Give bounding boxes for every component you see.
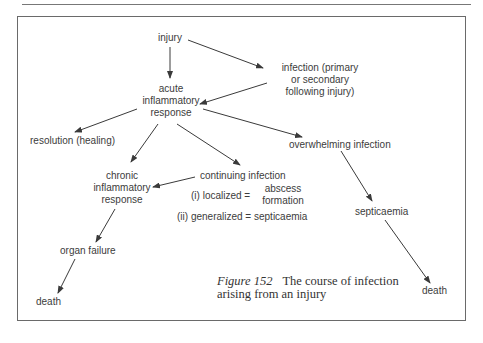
node-resolution: resolution (healing): [30, 135, 115, 147]
node-localized-value: abscess formation: [254, 183, 312, 207]
node-infection: infection (primary or secondary followin…: [266, 62, 374, 98]
node-chronic-line3: response: [86, 194, 158, 206]
node-localized-value-line1: abscess: [254, 183, 312, 195]
node-chronic: chronic inflammatory response: [86, 170, 158, 206]
node-acute: acute inflammatory response: [132, 83, 210, 119]
node-injury: injury: [158, 32, 182, 44]
figure-caption: Figure 152The course of infection arisin…: [217, 275, 399, 301]
edge-organ-death: [58, 259, 75, 293]
edge-overwhelming-septicaemia: [341, 151, 372, 201]
node-death-left: death: [36, 296, 61, 308]
node-infection-line3: following injury): [266, 86, 374, 98]
node-acute-line2: inflammatory: [132, 95, 210, 107]
node-septicaemia: septicaemia: [355, 206, 408, 218]
node-infection-line1: infection (primary: [266, 62, 374, 74]
edge-acute-overwhelming: [203, 109, 302, 137]
node-chronic-line1: chronic: [86, 170, 158, 182]
node-infection-line2: or secondary: [266, 74, 374, 86]
node-generalized: (ii) generalized = septicaemia: [177, 211, 307, 223]
caption-title-line1: The course of infection: [282, 274, 398, 288]
node-death-right: death: [422, 285, 447, 297]
edge-acute-resolution: [75, 109, 137, 132]
edge-injury-infection: [188, 40, 263, 68]
node-acute-line3: response: [132, 107, 210, 119]
node-localized-value-line2: formation: [254, 195, 312, 207]
node-overwhelming: overwhelming infection: [289, 139, 391, 151]
edge-continuing-chronic: [153, 177, 195, 187]
edge-acute-continuing: [177, 124, 240, 165]
node-continuing: continuing infection: [200, 170, 286, 182]
edge-chronic-organ: [96, 209, 115, 242]
node-acute-line1: acute: [132, 83, 210, 95]
node-chronic-line2: inflammatory: [86, 182, 158, 194]
node-organ-failure: organ failure: [60, 245, 116, 257]
edge-infection-acute: [200, 83, 267, 104]
caption-title-line2: arising from an injury: [217, 288, 399, 301]
node-localized-label: (i) localized =: [191, 190, 250, 202]
edge-acute-chronic: [131, 124, 158, 162]
caption-figure-label: Figure 152: [217, 274, 272, 288]
